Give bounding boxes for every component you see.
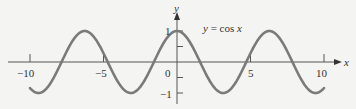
chart-svg: −10 −5 0 5 10 1 −1 x y y = cos x bbox=[0, 0, 356, 109]
x-axis-arrow-icon bbox=[334, 59, 342, 65]
y-axis-label: y bbox=[173, 2, 179, 14]
tick-label-y1: 1 bbox=[165, 25, 171, 37]
tick-label-yneg1: −1 bbox=[160, 88, 172, 100]
cosine-chart: −10 −5 0 5 10 1 −1 x y y = cos x bbox=[0, 0, 356, 109]
tick-label-neg10: −10 bbox=[17, 67, 35, 79]
tick-label-0: 0 bbox=[165, 67, 171, 79]
tick-label-10: 10 bbox=[316, 67, 328, 79]
curve-annotation: y = cos x bbox=[202, 22, 242, 34]
tick-label-neg5: −5 bbox=[95, 67, 107, 79]
tick-label-5: 5 bbox=[248, 67, 254, 79]
x-axis-label: x bbox=[343, 56, 349, 68]
